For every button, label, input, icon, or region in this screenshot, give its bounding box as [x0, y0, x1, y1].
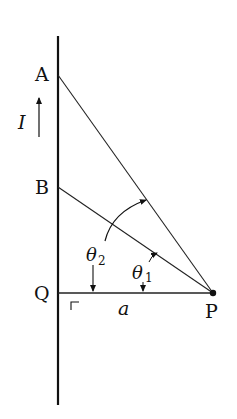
right-angle-icon [71, 302, 79, 310]
point-p-dot [210, 290, 216, 296]
segment-ap [58, 75, 213, 293]
theta2-arc-icon [105, 200, 146, 241]
diagram-canvas: A B Q P I a θ 2 θ 1 [0, 0, 237, 419]
label-q: Q [34, 282, 50, 304]
label-theta2: θ [86, 244, 97, 265]
label-b: B [35, 176, 49, 198]
label-distance: a [118, 297, 129, 319]
label-theta2-sub: 2 [98, 254, 106, 268]
label-theta1-sub: 1 [145, 271, 153, 285]
label-current: I [17, 111, 26, 133]
label-theta1: θ [132, 262, 143, 283]
label-a: A [34, 63, 49, 85]
label-p: P [205, 300, 218, 322]
